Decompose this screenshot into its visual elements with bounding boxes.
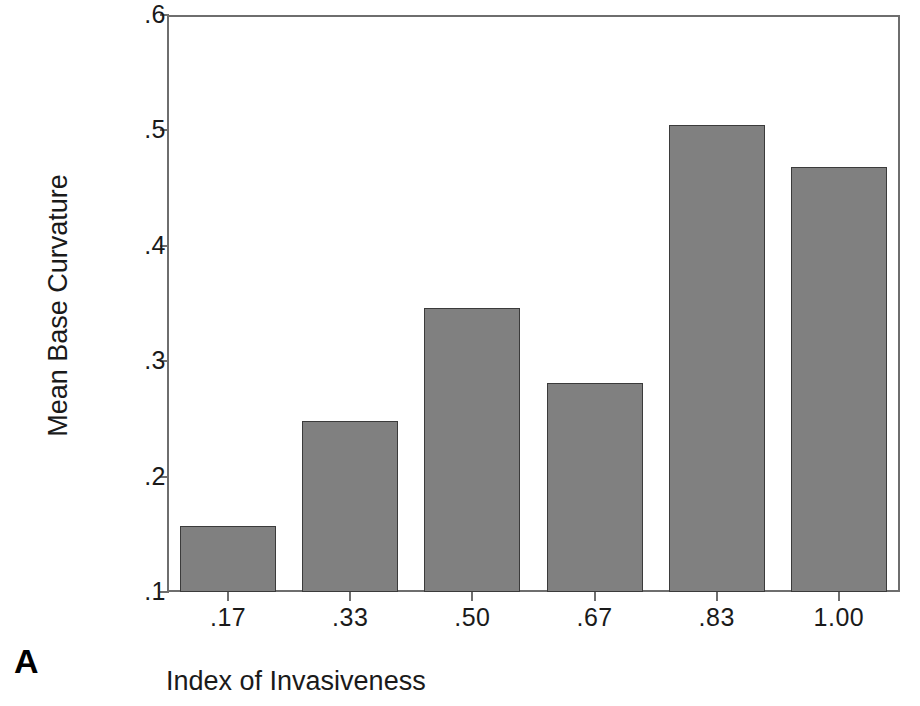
x-tick-mark bbox=[716, 592, 718, 601]
x-tick-mark bbox=[838, 592, 840, 601]
x-tick-mark bbox=[349, 592, 351, 601]
bar bbox=[302, 421, 398, 592]
y-tick-label: .5 bbox=[144, 117, 166, 142]
x-tick-label: .33 bbox=[332, 605, 368, 630]
x-tick-label: .17 bbox=[210, 605, 246, 630]
bar bbox=[547, 383, 643, 592]
x-tick-label: .67 bbox=[576, 605, 612, 630]
x-tick-mark bbox=[594, 592, 596, 601]
x-tick-label: .50 bbox=[454, 605, 490, 630]
y-tick-label: .2 bbox=[144, 464, 166, 489]
x-tick-mark bbox=[471, 592, 473, 601]
bar bbox=[180, 526, 276, 592]
y-axis-title: Mean Base Curvature bbox=[45, 66, 72, 546]
y-tick-label: .6 bbox=[144, 2, 166, 27]
y-tick-label: .4 bbox=[144, 233, 166, 258]
x-tick-label: .83 bbox=[699, 605, 735, 630]
bar bbox=[424, 308, 520, 592]
x-tick-mark bbox=[227, 592, 229, 601]
bar-chart-figure: .1.2.3.4.5.6 .17.33.50.67.831.00 Mean Ba… bbox=[0, 0, 920, 706]
x-axis-title: Index of Invasiveness bbox=[166, 668, 426, 695]
bar bbox=[791, 167, 887, 592]
y-tick-label: .3 bbox=[144, 348, 166, 373]
y-tick-label: .1 bbox=[144, 579, 166, 604]
panel-label: A bbox=[14, 644, 39, 678]
bar bbox=[669, 125, 765, 592]
x-tick-label: 1.00 bbox=[814, 605, 865, 630]
plot-area bbox=[167, 15, 900, 592]
